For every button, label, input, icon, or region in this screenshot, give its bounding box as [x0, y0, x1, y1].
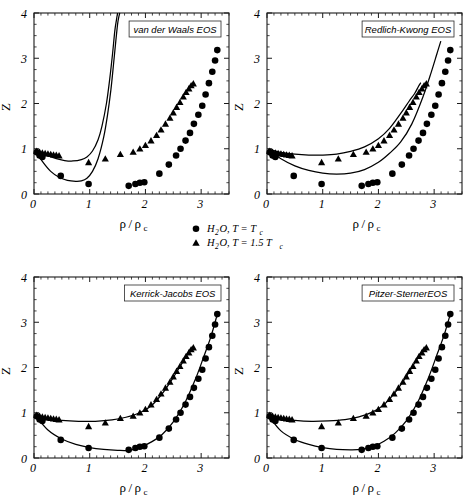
x-axis-label-slash: /: [129, 480, 133, 495]
triangle-marker: [162, 120, 169, 126]
triangle-marker: [318, 159, 325, 165]
circle-marker: [445, 321, 452, 328]
circle-marker: [85, 181, 92, 188]
circle-marker: [435, 91, 442, 98]
circle-marker: [318, 181, 325, 188]
y-tick-label: 0: [21, 188, 27, 202]
model-curve: [268, 83, 421, 156]
y-tick-label: 0: [254, 188, 260, 202]
circle-marker: [420, 394, 427, 401]
circle-marker: [374, 179, 381, 186]
triangle-marker: [318, 423, 325, 429]
triangle-marker: [147, 137, 154, 143]
triangle-marker: [157, 126, 164, 132]
circle-marker: [166, 425, 173, 432]
y-tick-label: 2: [21, 97, 27, 111]
x-axis-label-rho: ρ: [120, 216, 127, 231]
legend-circle-marker: [193, 226, 200, 233]
x-tick-label: 3: [429, 461, 436, 475]
triangle-marker: [142, 142, 149, 148]
circle-marker: [209, 333, 216, 340]
x-axis-label-subscript: c: [144, 487, 148, 496]
x-axis-label-rho: ρ: [353, 216, 360, 231]
series-circles: [266, 311, 453, 453]
circle-marker: [187, 130, 194, 137]
circle-marker: [432, 366, 439, 373]
x-tick-label: 0: [263, 461, 269, 475]
y-tick-label: 4: [21, 271, 27, 285]
circle-marker: [415, 401, 422, 408]
circle-marker: [424, 385, 431, 392]
y-tick-label: 3: [253, 52, 260, 66]
triangle-marker: [369, 145, 376, 151]
circle-marker: [445, 57, 452, 64]
model-curve: [35, 314, 217, 450]
x-axis-label-slash: /: [129, 216, 133, 231]
circle-marker: [399, 161, 406, 168]
circle-marker: [442, 333, 449, 340]
circle-marker: [125, 183, 132, 190]
triangle-marker: [390, 126, 397, 132]
circle-marker: [199, 102, 206, 109]
x-tick-label: 0: [30, 197, 36, 211]
legend-label-subscript-2: 2: [215, 228, 219, 237]
circle-marker: [57, 173, 64, 180]
circle-marker: [191, 121, 198, 128]
y-tick-label: 1: [254, 406, 260, 420]
y-tick-label: 4: [21, 7, 27, 21]
series-circles: [33, 47, 220, 189]
x-tick-label: 1: [86, 197, 92, 211]
y-tick-label: 0: [21, 452, 27, 466]
circle-marker: [191, 385, 198, 392]
triangle-marker: [386, 132, 393, 138]
y-tick-label: 1: [21, 142, 27, 156]
x-axis-label-rho: ρ: [120, 480, 127, 495]
y-tick-label: 1: [254, 142, 260, 156]
four-panel-eos-figure: 012301234Zρ/ρcvan der Waals EOS012301234…: [0, 0, 473, 496]
circle-marker: [415, 137, 422, 144]
triangle-marker: [409, 363, 416, 369]
circle-marker: [435, 355, 442, 362]
x-tick-label: 1: [86, 461, 92, 475]
triangle-marker: [170, 109, 177, 115]
circle-marker: [389, 434, 396, 441]
circle-marker: [57, 437, 64, 444]
y-axis-label: Z: [0, 367, 13, 375]
model-curve: [35, 13, 117, 161]
legend-label-subscript-c: c: [260, 228, 264, 237]
circle-marker: [85, 445, 92, 452]
legend-label-subscript-c: c: [280, 242, 284, 251]
plot-frame: [34, 13, 229, 194]
triangle-marker: [117, 151, 124, 157]
y-tick-label: 4: [254, 7, 260, 21]
x-tick-label: 1: [319, 197, 325, 211]
circle-marker: [428, 112, 435, 119]
triangle-marker: [395, 120, 402, 126]
circle-marker: [290, 173, 297, 180]
x-axis-label-rho-den: ρ: [368, 480, 375, 495]
y-tick-label: 2: [254, 361, 260, 375]
series-triangles: [33, 344, 197, 429]
series-triangles: [33, 80, 197, 165]
triangle-marker: [335, 155, 342, 161]
circle-marker: [428, 376, 435, 383]
x-tick-label: 2: [374, 197, 380, 211]
circle-marker: [410, 145, 417, 152]
y-axis-label: Z: [231, 103, 246, 111]
legend-label-body: O, T = T: [220, 223, 258, 234]
circle-marker: [442, 69, 449, 76]
figure-legend: H2O, T = TcH2O, T = 1.5 Tc: [192, 223, 283, 251]
circle-marker: [141, 443, 148, 450]
circle-marker: [410, 409, 417, 416]
circle-marker: [447, 47, 454, 54]
circle-marker: [374, 443, 381, 450]
x-axis-label-subscript: c: [144, 223, 148, 233]
x-tick-label: 0: [30, 461, 36, 475]
x-axis-label-rho-den: ρ: [368, 216, 375, 231]
x-tick-label: 3: [196, 197, 203, 211]
series-triangles: [266, 344, 430, 429]
circle-marker: [156, 434, 163, 441]
triangle-marker: [403, 373, 410, 379]
panel-title: Kerrick-Jacobs EOS: [130, 288, 216, 299]
triangle-marker: [399, 378, 406, 384]
